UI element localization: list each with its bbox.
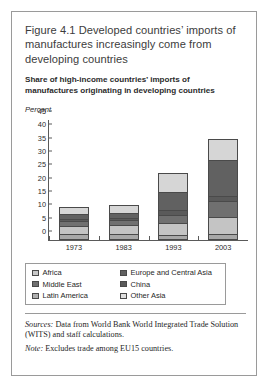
legend-item-latin-america[interactable]: Latin America — [32, 291, 120, 300]
legend-swatch-icon — [120, 270, 127, 276]
bar-slot-1973: 1973 — [49, 120, 99, 240]
y-axis-tick-0: 0 — [42, 227, 49, 236]
x-axis-label-2003: 2003 — [198, 243, 248, 252]
x-axis-tickmark — [49, 236, 50, 240]
bar-segment-middle-east[interactable] — [209, 202, 237, 218]
x-axis-label-1993: 1993 — [149, 243, 199, 252]
bar-slot-1993: 1993 — [149, 120, 199, 240]
legend-item-other-asia[interactable]: Other Asia — [120, 291, 166, 300]
legend-label: Latin America — [43, 291, 88, 300]
sources-text: Data from World Bank World Integrated Tr… — [25, 320, 238, 339]
stacked-bar-1993[interactable] — [158, 173, 188, 240]
figure-container: Figure 4.1 Developed countries’ imports … — [11, 11, 257, 376]
legend-label: Europe and Central Asia — [131, 268, 212, 277]
bar-slot-1983: 1983 — [99, 120, 149, 240]
y-axis-tick-40: 40 — [38, 120, 49, 129]
stacked-bar-1973[interactable] — [59, 207, 89, 240]
y-axis-tick-10: 10 — [38, 200, 49, 209]
bar-segment-other-asia[interactable] — [110, 206, 138, 214]
legend-row: AfricaEurope and Central Asia — [32, 268, 220, 277]
stacked-bar-1983[interactable] — [109, 205, 139, 240]
sources-note: Sources: Data from World Bank World Inte… — [25, 320, 246, 340]
legend-item-europe-and-central-asia[interactable]: Europe and Central Asia — [120, 268, 212, 277]
y-axis-tick-45: 45 — [38, 107, 49, 116]
footer-divider — [25, 313, 246, 314]
bar-segment-africa[interactable] — [110, 235, 138, 239]
legend-row: Latin AmericaOther Asia — [32, 291, 220, 300]
x-axis-tickmark — [198, 236, 199, 240]
y-axis-tick-5: 5 — [42, 213, 49, 222]
y-axis-unit-label: Percent — [25, 105, 244, 114]
legend-label: Africa — [43, 268, 62, 277]
legend-label: Other Asia — [131, 291, 166, 300]
bar-segment-latin-america[interactable] — [209, 218, 237, 235]
bar-segment-other-asia[interactable] — [209, 140, 237, 161]
legend-item-middle-east[interactable]: Middle East — [32, 280, 120, 289]
y-axis-tick-30: 30 — [38, 147, 49, 156]
bar-segment-other-asia[interactable] — [159, 174, 187, 192]
figure-subtitle: Share of high-income countries’ imports … — [25, 75, 244, 96]
x-axis-label-1973: 1973 — [49, 243, 99, 252]
legend-label: Middle East — [43, 280, 82, 289]
y-axis-tick-35: 35 — [38, 133, 49, 142]
chart-legend: AfricaEurope and Central AsiaMiddle East… — [25, 263, 226, 305]
note-label: Note: — [25, 344, 43, 353]
bar-segment-latin-america[interactable] — [60, 227, 88, 236]
x-axis-tickmark — [149, 236, 150, 240]
legend-swatch-icon — [32, 270, 39, 276]
bar-segment-latin-america[interactable] — [159, 224, 187, 237]
legend-swatch-icon — [32, 281, 39, 287]
legend-row: Middle EastChina — [32, 280, 220, 289]
bar-group: 1973198319932003 — [49, 120, 248, 240]
legend-item-china[interactable]: China — [120, 280, 150, 289]
y-axis-tick-20: 20 — [38, 173, 49, 182]
x-axis-label-1983: 1983 — [99, 243, 149, 252]
sources-label: Sources: — [25, 320, 53, 329]
x-axis-tickmark — [99, 236, 100, 240]
note-text: Excludes trade among EU15 countries. — [43, 344, 173, 353]
bar-segment-europe-and-central-asia[interactable] — [159, 193, 187, 211]
excludes-note: Note: Excludes trade among EU15 countrie… — [25, 344, 246, 354]
bar-segment-africa[interactable] — [60, 235, 88, 239]
legend-label: China — [131, 280, 151, 289]
chart-plot-area: 051015202530354045 1973198319932003 — [26, 116, 248, 244]
bar-segment-latin-america[interactable] — [110, 226, 138, 235]
chart-axes: 051015202530354045 1973198319932003 — [48, 120, 248, 241]
legend-item-africa[interactable]: Africa — [32, 268, 120, 277]
legend-swatch-icon — [32, 293, 39, 299]
bar-segment-africa[interactable] — [209, 235, 237, 239]
y-axis-tick-15: 15 — [38, 187, 49, 196]
y-axis-tick-25: 25 — [38, 160, 49, 169]
legend-swatch-icon — [120, 281, 127, 287]
stacked-bar-2003[interactable] — [208, 139, 238, 240]
figure-title: Figure 4.1 Developed countries’ imports … — [25, 23, 244, 66]
bar-slot-2003: 2003 — [198, 120, 248, 240]
bar-segment-middle-east[interactable] — [159, 216, 187, 224]
bar-segment-other-asia[interactable] — [60, 208, 88, 216]
bar-segment-europe-and-central-asia[interactable] — [209, 161, 237, 198]
legend-swatch-icon — [120, 293, 127, 299]
bar-segment-africa[interactable] — [159, 236, 187, 239]
